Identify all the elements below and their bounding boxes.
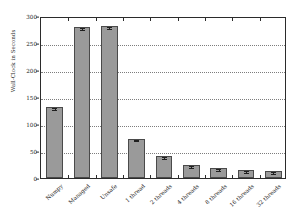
y-axis-tick-mark [36,179,39,180]
axis-tick [205,18,206,21]
y-axis-tick-mark [36,98,39,99]
error-bar-cap [216,171,221,172]
y-axis-tick-labels: 050100150200250300 [0,17,37,179]
error-bar-cap [107,29,112,30]
axis-tick [232,175,233,178]
x-axis-tick-label: 8 threads [204,183,228,206]
y-axis-tick-mark [36,152,39,153]
y-axis-tick-label: 0 [3,176,37,182]
y-axis-tick-mark [36,71,39,72]
y-axis-tick-label: 150 [3,95,37,101]
x-axis-tick-label: Unsafe [100,183,119,201]
bar [74,27,91,178]
error-bar-cap [189,168,194,169]
y-axis-tick-label: 200 [3,68,37,74]
x-axis-tick-label: Numpy [44,183,63,201]
axis-tick [205,175,206,178]
axis-tick [150,175,151,178]
axis-tick [260,175,261,178]
axis-tick [96,18,97,21]
axis-tick [123,18,124,21]
y-axis-tick-mark [36,44,39,45]
error-bar-cap [189,166,194,167]
axis-tick [96,175,97,178]
x-axis-tick-label: 1 thread [124,183,146,204]
bar [128,139,145,178]
y-axis-tick-label: 300 [3,14,37,20]
x-axis-tick-label: 4 threads [176,183,200,206]
bar [101,26,118,178]
axis-tick [150,18,151,21]
axis-tick [232,18,233,21]
axis-tick [178,18,179,21]
y-axis-tick-mark [36,17,39,18]
y-axis-tick-label: 50 [3,149,37,155]
axis-tick [123,175,124,178]
x-axis-tick-label: 32 threads [256,183,283,208]
bar [46,107,63,178]
error-bar-cap [80,30,85,31]
error-bar-cap [271,174,276,175]
x-axis-tick-label: Managed [67,183,91,205]
axis-tick [68,175,69,178]
axis-tick [260,18,261,21]
axis-tick [68,18,69,21]
error-bar-cap [52,110,57,111]
y-axis-tick-label: 250 [3,41,37,47]
chart-figure: Wall-Clock in Seconds 050100150200250300… [0,0,296,219]
x-axis-tick-label: 2 threads [149,183,173,206]
error-bar-cap [244,173,249,174]
axis-tick [178,175,179,178]
error-bar-cap [134,141,139,142]
y-axis-tick-label: 100 [3,122,37,128]
x-axis-tick-label: 16 threads [228,183,255,208]
error-bar-cap [162,159,167,160]
x-axis-tick-labels: NumpyManagedUnsafe1 thread2 threads4 thr… [40,179,286,219]
plot-area [40,17,286,179]
y-axis-tick-mark [36,125,39,126]
